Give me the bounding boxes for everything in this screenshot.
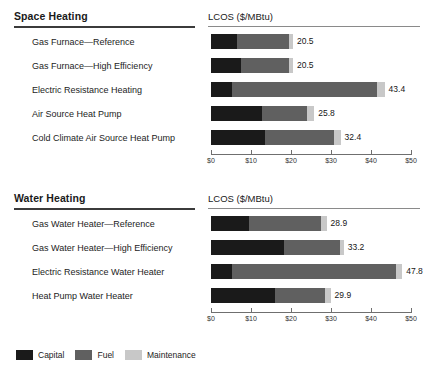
bar-row-label: Heat Pump Water Heater	[32, 291, 133, 301]
axis-tick	[331, 308, 332, 313]
bar-segment-maintenance	[289, 58, 293, 73]
bar-segment-fuel	[232, 82, 378, 97]
chart-page: Space Heating LCOS ($/MBtu) Gas Furnace—…	[0, 0, 434, 374]
bar-row-label: Electric Resistance Heating	[32, 85, 142, 95]
bar-row-label: Gas Furnace—High Efficiency	[32, 61, 152, 71]
axis-tick-label: $40	[365, 315, 377, 322]
legend-label: Capital	[38, 350, 64, 360]
bar-segment-capital	[211, 240, 284, 255]
bar-segment-capital	[211, 216, 249, 231]
bar-rows-space-heating: Gas Furnace—Reference20.5Gas Furnace—Hig…	[0, 30, 434, 150]
axis-tick-label: $50	[405, 157, 417, 164]
bar-row: Cold Climate Air Source Heat Pump32.4	[0, 126, 434, 150]
stacked-bar[interactable]	[211, 288, 411, 303]
axis-tick	[211, 150, 212, 155]
axis-tick-label: $0	[207, 315, 215, 322]
axis-tick	[411, 150, 412, 155]
bar-value-label: 20.5	[297, 36, 314, 46]
axis-tick-label: $20	[285, 315, 297, 322]
axis-line	[211, 312, 411, 313]
axis-top-rule	[208, 26, 420, 27]
bar-value-label: 47.8	[406, 266, 423, 276]
stacked-bar[interactable]	[211, 240, 411, 255]
bar-segment-fuel	[262, 106, 308, 121]
section-title-space-heating: Space Heating	[14, 10, 88, 22]
bar-row: Air Source Heat Pump25.8	[0, 102, 434, 126]
bar-value-label: 43.4	[389, 84, 406, 94]
legend-swatch-maintenance	[125, 350, 142, 360]
bar-segment-fuel	[249, 216, 321, 231]
bar-value-label: 29.9	[335, 290, 352, 300]
bar-segment-fuel	[237, 34, 289, 49]
bar-segment-capital	[211, 264, 232, 279]
bar-segment-fuel	[275, 288, 325, 303]
axis-tick-label: $30	[325, 157, 337, 164]
title-underline	[14, 208, 195, 210]
axis-tick	[331, 150, 332, 155]
bar-value-label: 33.2	[348, 242, 365, 252]
legend-label: Fuel	[97, 350, 114, 360]
bar-value-label: 20.5	[297, 60, 314, 70]
bar-row-label: Air Source Heat Pump	[32, 109, 122, 119]
axis-tick	[211, 308, 212, 313]
bar-segment-maintenance	[377, 82, 384, 97]
axis-line	[211, 154, 411, 155]
bar-row: Gas Water Heater—High Efficiency33.2	[0, 236, 434, 260]
title-underline	[14, 26, 195, 28]
legend-label: Maintenance	[147, 350, 196, 360]
axis-tick	[251, 308, 252, 313]
axis-tick-label: $40	[365, 157, 377, 164]
bar-segment-maintenance	[307, 106, 314, 121]
bar-segment-maintenance	[325, 288, 331, 303]
axis-tick-label: $10	[245, 157, 257, 164]
axis-tick	[371, 150, 372, 155]
bar-segment-maintenance	[396, 264, 402, 279]
bar-segment-capital	[211, 82, 232, 97]
bar-segment-capital	[211, 58, 241, 73]
bar-segment-capital	[211, 106, 262, 121]
bar-value-label: 32.4	[345, 132, 362, 142]
stacked-bar[interactable]	[211, 82, 411, 97]
legend-item[interactable]: Capital	[16, 350, 64, 360]
legend-swatch-capital	[16, 350, 33, 360]
bar-segment-capital	[211, 288, 275, 303]
axis-tick	[291, 150, 292, 155]
bar-segment-fuel	[232, 264, 396, 279]
bar-row-label: Cold Climate Air Source Heat Pump	[32, 133, 175, 143]
axis-tick	[411, 308, 412, 313]
stacked-bar[interactable]	[211, 264, 411, 279]
bar-row-label: Gas Water Heater—Reference	[32, 219, 155, 229]
panel-water-heating: Water Heating LCOS ($/MBtu) Gas Water He…	[0, 192, 434, 330]
bar-segment-fuel	[241, 58, 289, 73]
axis-title-water-heating: LCOS ($/MBtu)	[208, 193, 273, 204]
bar-row: Gas Water Heater—Reference28.9	[0, 212, 434, 236]
axis-title-space-heating: LCOS ($/MBtu)	[208, 11, 273, 22]
bar-value-label: 28.9	[331, 218, 348, 228]
bar-segment-maintenance	[340, 240, 344, 255]
stacked-bar[interactable]	[211, 106, 411, 121]
bar-segment-capital	[211, 34, 237, 49]
stacked-bar[interactable]	[211, 130, 411, 145]
bar-row: Heat Pump Water Heater29.9	[0, 284, 434, 308]
legend-item[interactable]: Maintenance	[125, 350, 196, 360]
axis-tick-label: $0	[207, 157, 215, 164]
bar-row-label: Gas Furnace—Reference	[32, 37, 135, 47]
legend-item[interactable]: Fuel	[75, 350, 114, 360]
x-axis-space-heating: $0$10$20$30$40$50	[0, 150, 434, 172]
axis-tick-label: $50	[405, 315, 417, 322]
bar-row: Gas Furnace—Reference20.5	[0, 30, 434, 54]
bar-segment-maintenance	[334, 130, 341, 145]
bar-value-label: 25.8	[318, 108, 335, 118]
bar-rows-water-heating: Gas Water Heater—Reference28.9Gas Water …	[0, 212, 434, 308]
axis-tick-label: $30	[325, 315, 337, 322]
bar-segment-fuel	[265, 130, 334, 145]
stacked-bar[interactable]	[211, 216, 411, 231]
bar-row: Electric Resistance Water Heater47.8	[0, 260, 434, 284]
x-axis-water-heating: $0$10$20$30$40$50	[0, 308, 434, 330]
bar-row-label: Electric Resistance Water Heater	[32, 267, 164, 277]
axis-top-rule	[208, 208, 420, 209]
axis-tick	[251, 150, 252, 155]
panel-header: Water Heating LCOS ($/MBtu)	[0, 192, 434, 212]
bar-segment-fuel	[284, 240, 340, 255]
axis-tick-label: $20	[285, 157, 297, 164]
